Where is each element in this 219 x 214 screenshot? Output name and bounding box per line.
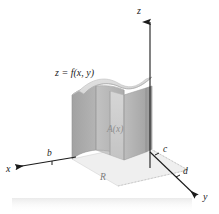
tick-label-d: d (183, 166, 188, 176)
cross-section-area-label: A(x) (106, 124, 123, 135)
left-face (72, 86, 96, 159)
page-shadow (12, 198, 192, 212)
tick-label-b: b (47, 148, 52, 158)
solid-body (72, 77, 152, 160)
y-axis-label: y (202, 191, 208, 202)
x-axis-label: x (5, 163, 11, 174)
figure-container: z = f(x, y) A(x) R z x y b c d (0, 0, 219, 214)
tick-label-c: c (163, 144, 168, 154)
solid-under-surface-diagram: z = f(x, y) A(x) R z x y b c d (0, 0, 219, 214)
z-axis-label: z (136, 5, 141, 16)
x-axis (16, 157, 76, 167)
right-face (124, 88, 146, 160)
tick-d-mark (176, 175, 180, 177)
right-end-face (146, 86, 152, 152)
region-label: R (99, 172, 106, 182)
surface-equation-label: z = f(x, y) (54, 67, 95, 79)
